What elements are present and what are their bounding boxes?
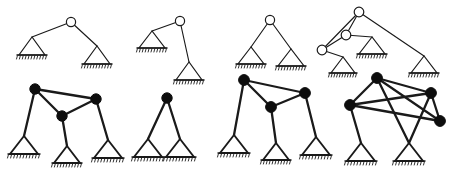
filled-joint-node[interactable] [57, 111, 67, 121]
filled-joint-node[interactable] [426, 88, 437, 99]
filled-joint-node[interactable] [435, 116, 446, 127]
hollow-joint-node[interactable] [354, 7, 364, 17]
filled-joint-node[interactable] [345, 100, 356, 111]
truss-diagram-figure [0, 0, 459, 179]
filled-joint-node[interactable] [30, 84, 40, 94]
filled-joint-node[interactable] [162, 93, 172, 103]
hollow-joint-node[interactable] [317, 45, 327, 55]
figure-container [0, 0, 459, 179]
filled-joint-node[interactable] [266, 102, 277, 113]
joints-group [175, 16, 184, 25]
hollow-joint-node[interactable] [341, 30, 351, 40]
hollow-joint-node[interactable] [66, 17, 75, 26]
hollow-joint-node[interactable] [175, 16, 184, 25]
filled-joint-node[interactable] [91, 94, 101, 104]
filled-joint-node[interactable] [239, 75, 250, 86]
hollow-joint-node[interactable] [265, 15, 274, 24]
joints-group [265, 15, 274, 24]
filled-joint-node[interactable] [300, 88, 311, 99]
joints-group [66, 17, 75, 26]
joints-group [162, 93, 172, 103]
filled-joint-node[interactable] [372, 73, 383, 84]
